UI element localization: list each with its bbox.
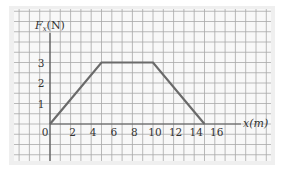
y-tick-label: 1	[38, 98, 45, 110]
y-axis-label: Fx(N)	[34, 19, 65, 33]
x-tick-label: 4	[90, 126, 97, 138]
x-tick-label: 16	[210, 126, 224, 138]
force-position-chart: 0246810121416123 Fx(N) x(m)	[0, 0, 283, 169]
x-tick-label: 8	[131, 126, 138, 138]
y-tick-label: 2	[38, 77, 45, 89]
x-axis-label: x(m)	[243, 117, 268, 130]
x-tick-label: 2	[69, 126, 76, 138]
y-tick-label: 3	[38, 57, 45, 69]
x-tick-label: 10	[148, 126, 161, 138]
x-tick-label: 14	[190, 126, 204, 138]
x-tick-label: 12	[169, 126, 182, 138]
x-tick-label: 6	[110, 126, 117, 138]
x-tick-label: 0	[42, 126, 49, 138]
